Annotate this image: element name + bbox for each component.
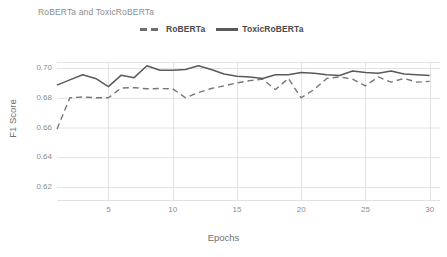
- data-series-layer: [57, 66, 430, 129]
- x-tick-label: 15: [225, 205, 249, 214]
- y-tick-label: 0.70: [24, 63, 52, 72]
- x-axis-label: Epochs: [0, 232, 447, 243]
- y-tick-label: 0.68: [24, 93, 52, 102]
- x-tick-label: 30: [418, 205, 442, 214]
- y-tick-label: 0.62: [24, 182, 52, 191]
- x-tick-label: 5: [96, 205, 120, 214]
- series-line-roberta: [57, 77, 430, 129]
- plot-area: [0, 0, 447, 257]
- y-axis-label: F1 Score: [7, 84, 18, 154]
- y-tick-label: 0.64: [24, 152, 52, 161]
- x-tick-label: 20: [289, 205, 313, 214]
- x-tick-label: 25: [353, 205, 377, 214]
- chart-container: RoBERTa and ToxicRoBERTa RoBERTa ToxicRo…: [0, 0, 447, 257]
- x-tick-label: 10: [161, 205, 185, 214]
- y-tick-label: 0.66: [24, 123, 52, 132]
- gridlines: [57, 62, 440, 201]
